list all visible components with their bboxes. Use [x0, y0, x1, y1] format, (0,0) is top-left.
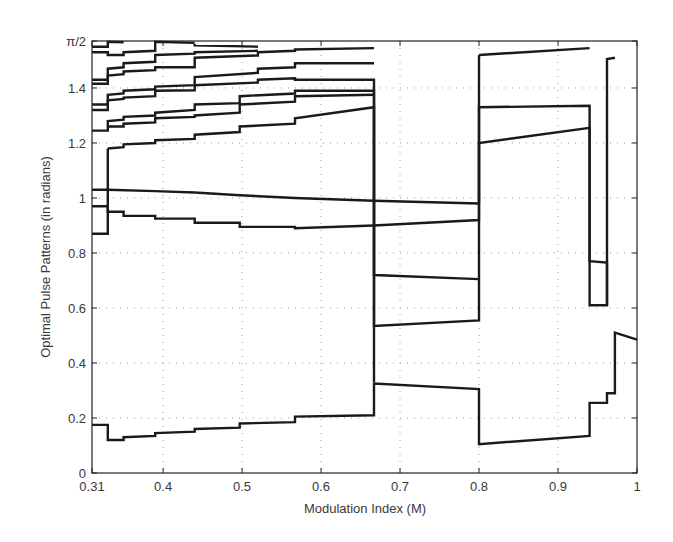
y-tick-label: 0.4 [68, 356, 86, 371]
y-tick-label: 0.2 [68, 411, 86, 426]
pulse-pattern-chart: 0.310.40.50.60.70.80.91 00.20.40.60.811.… [0, 0, 673, 542]
y-tick-label: 1.2 [68, 136, 86, 151]
series-angle-h [92, 190, 479, 204]
y-tick-label: π/2 [66, 34, 86, 49]
series-angle-g [108, 107, 374, 382]
y-tick-label: 1.4 [68, 81, 86, 96]
series-angle-top-1 [92, 42, 124, 47]
x-tick-label: 0.4 [154, 479, 172, 494]
x-tick-label: 0.7 [391, 479, 409, 494]
x-tick-label: 1 [633, 479, 640, 494]
y-tick-label: 1 [79, 191, 86, 206]
y-tick-label: 0.6 [68, 301, 86, 316]
series-angle-late [479, 48, 590, 55]
x-tick-label: 0.6 [312, 479, 330, 494]
y-tick-label: 0 [79, 466, 86, 481]
series-angle-j [92, 149, 108, 234]
x-tick-label: 0.8 [470, 479, 488, 494]
y-axis-label: Optimal Pulse Patterns (in radians) [38, 156, 53, 358]
x-tick-label: 0.9 [549, 479, 567, 494]
x-tick-label: 0.5 [233, 479, 251, 494]
y-axis-ticks: 00.20.40.60.811.21.4π/2 [66, 34, 637, 481]
x-tick-label: 0.31 [79, 479, 104, 494]
series-angle-b [92, 48, 374, 84]
series-angle-d [92, 78, 479, 279]
series-angle-top-3 [195, 44, 258, 47]
series-lines [92, 42, 637, 444]
series-angle-bottom [92, 333, 637, 444]
y-tick-label: 0.8 [68, 246, 86, 261]
x-axis-label: Modulation Index (M) [304, 501, 426, 516]
series-angle-i [92, 128, 607, 305]
series-angle-f [108, 95, 374, 127]
